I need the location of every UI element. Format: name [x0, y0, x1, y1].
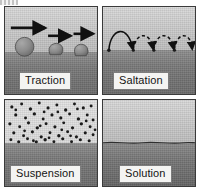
- grain-group: [15, 37, 88, 56]
- sediment-transport-figure: Traction: [0, 0, 200, 189]
- hop-arc-3: [154, 36, 174, 50]
- panel-label-suspension: Suspension: [10, 165, 81, 183]
- hop-arc-2: [133, 36, 153, 50]
- panel-saltation: Saltation: [102, 6, 196, 95]
- impact-grains: [107, 48, 176, 52]
- hop-arc-4: [174, 36, 192, 50]
- panel-suspension: Suspension: [4, 99, 98, 188]
- panel-grid: Traction: [4, 6, 196, 187]
- panel-label-solution: Solution: [119, 165, 172, 183]
- panel-label-traction: Traction: [19, 72, 71, 90]
- motion-arrows: [11, 28, 93, 36]
- scan-artifact: [0, 0, 18, 5]
- panel-traction: Traction: [4, 6, 98, 95]
- panel-label-saltation: Saltation: [113, 72, 169, 90]
- hop-arc-1: [109, 32, 132, 50]
- panel-solution: Solution: [102, 99, 196, 188]
